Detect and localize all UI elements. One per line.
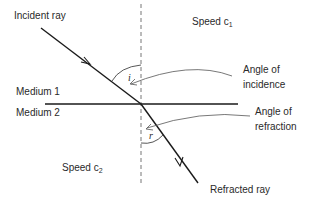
refracted-ray [141, 104, 198, 183]
speed-c2-prefix: Speed c [62, 162, 99, 173]
angle-refraction-label-line2: refraction [255, 121, 297, 133]
medium-2-label: Medium 2 [16, 107, 60, 119]
speed-c1-prefix: Speed c [192, 16, 229, 27]
angle-incidence-arc [112, 65, 141, 81]
speed-c1-subscript: 1 [229, 21, 233, 28]
speed-c1-label: Speed c1 [192, 16, 233, 28]
angle-r-symbol: r [149, 131, 153, 141]
angle-refraction-label-line1: Angle of [255, 106, 292, 118]
medium-1-label: Medium 1 [16, 86, 60, 98]
incident-arrow-icon [81, 57, 90, 64]
refraction-pointer [147, 115, 250, 129]
incidence-pointer [131, 70, 232, 84]
speed-c2-subscript: 2 [99, 167, 103, 174]
speed-c2-label: Speed c2 [62, 162, 103, 174]
angle-incidence-label-line2: incidence [243, 79, 285, 91]
refracted-arrow-icon [175, 157, 183, 166]
incident-ray-label: Incident ray [14, 10, 66, 22]
refraction-diagram [0, 0, 309, 204]
angle-i-symbol: i [128, 73, 131, 83]
angle-incidence-label-line1: Angle of [243, 64, 280, 76]
refracted-ray-label: Refracted ray [210, 184, 270, 196]
